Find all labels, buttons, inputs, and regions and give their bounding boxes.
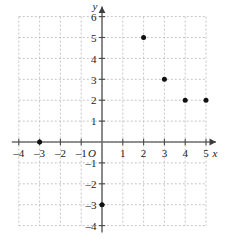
x-tick-label: –4 (12, 147, 25, 159)
x-tick-label: 5 (203, 147, 209, 159)
data-point (183, 98, 188, 103)
scatter-plot: –4–3–2–112345 –4–3–2–1123456 O x y (0, 0, 225, 239)
x-tick-label: 3 (162, 147, 168, 159)
y-tick-label: 5 (91, 32, 97, 44)
y-tick-label: –1 (85, 157, 97, 169)
y-tick-label: 3 (91, 74, 97, 86)
y-tick-label: 4 (91, 53, 97, 65)
y-axis-tick-labels: –4–3–2–1123456 (85, 11, 98, 232)
x-axis-arrow-icon (210, 139, 217, 146)
data-point (100, 202, 105, 207)
y-tick-label: –2 (85, 178, 97, 190)
x-tick-label: 4 (182, 147, 188, 159)
x-tick-label: 2 (141, 147, 147, 159)
data-point (204, 98, 209, 103)
y-axis-arrow-icon (99, 7, 106, 14)
data-point (37, 140, 42, 145)
y-tick-label: –3 (85, 199, 98, 211)
x-axis-label: x (212, 147, 218, 159)
data-point (162, 77, 167, 82)
y-tick-label: –4 (85, 220, 98, 232)
x-tick-label: –3 (33, 147, 46, 159)
x-tick-label: –2 (54, 147, 66, 159)
y-axis-label: y (92, 0, 98, 12)
y-tick-label: 2 (91, 94, 97, 106)
y-tick-label: 1 (91, 115, 97, 127)
data-point (141, 35, 146, 40)
origin-label: O (88, 147, 96, 159)
y-tick-label: 6 (91, 11, 97, 23)
axes (12, 7, 216, 233)
horizontal-gridlines (19, 17, 206, 226)
x-axis-tick-labels: –4–3–2–112345 (12, 147, 209, 159)
x-tick-label: 1 (120, 147, 126, 159)
coordinate-plane-figure: –4–3–2–112345 –4–3–2–1123456 O x y (0, 0, 225, 239)
